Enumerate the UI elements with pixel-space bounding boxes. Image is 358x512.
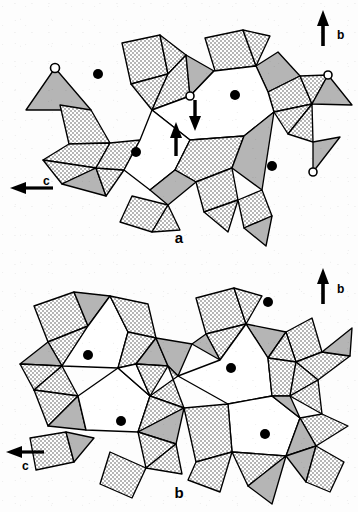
filled-site [83, 350, 93, 360]
filled-site [131, 147, 141, 157]
polyhedra-group-a [26, 30, 352, 246]
axis-b-arrow-b [317, 268, 329, 304]
open-site [51, 64, 60, 73]
axis-c-label-panel-b: c [22, 459, 29, 473]
axis-b-label-panel-b: b [337, 282, 344, 296]
axis-b-label-panel-a: b [337, 28, 344, 42]
polyhedron-stippled [60, 105, 110, 144]
axis-b-arrow-a [317, 10, 329, 46]
panel-b-diagram [0, 256, 358, 512]
polyhedron-gray [322, 328, 352, 356]
polyhedron-gray [313, 137, 340, 172]
panel-a-label: a [0, 229, 358, 246]
polyhedra-group-b [20, 288, 352, 504]
filled-site [226, 363, 236, 373]
filled-site [267, 161, 277, 171]
open-site [309, 168, 317, 176]
filled-site [93, 69, 103, 79]
filled-site [263, 297, 273, 307]
panel-b [0, 256, 358, 512]
polyhedron-gray [26, 68, 91, 110]
panel-a-diagram [0, 0, 358, 256]
filled-site [230, 90, 240, 100]
filled-site [116, 416, 126, 426]
panel-b-label: b [0, 484, 358, 501]
figure-container: a b c [0, 0, 358, 512]
axis-c-label-panel-a: c [43, 174, 50, 188]
open-site [186, 92, 194, 100]
panel-a [0, 0, 358, 256]
filled-site [260, 429, 270, 439]
open-site [324, 71, 332, 79]
